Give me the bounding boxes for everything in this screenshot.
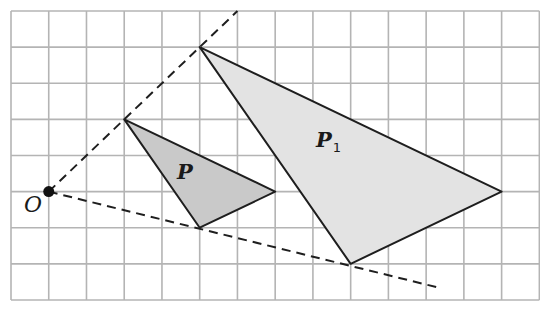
label-p1-text: P [316,127,332,152]
centre-point-o [43,186,54,197]
centre-label-o: O [24,194,42,216]
centre-label-text: O [24,192,42,217]
label-p1-subscript: 1 [333,140,341,155]
label-p: P [177,161,193,182]
enlargement-diagram [0,0,540,311]
label-p-text: P [177,159,193,184]
label-p1: P1 [316,129,341,150]
